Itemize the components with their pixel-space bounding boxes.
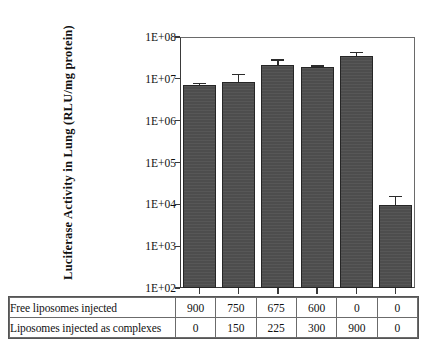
- data-table: Free liposomes injected90075067560000Lip…: [8, 296, 419, 339]
- table-cell: 900: [337, 318, 377, 338]
- x-axis-tick-mark: [238, 288, 239, 294]
- table-cell: 0: [377, 318, 417, 338]
- table-row: Free liposomes injected90075067560000: [10, 298, 418, 318]
- table-cell: 600: [296, 298, 336, 318]
- y-axis-tick-label: 1E+06: [114, 115, 176, 127]
- plot-area: [180, 37, 415, 288]
- error-bar-cap: [271, 59, 284, 60]
- error-bar-cap: [193, 83, 206, 84]
- table-row-label: Liposomes injected as complexes: [10, 318, 176, 338]
- x-axis-tick-marks: [180, 288, 415, 295]
- table-cell: 900: [175, 298, 215, 318]
- bar: [222, 82, 255, 288]
- bar: [261, 65, 294, 288]
- y-axis-tick-label: 1E+08: [114, 31, 176, 43]
- y-axis-tick-label: 1E+07: [114, 73, 176, 85]
- error-bar-cap: [350, 52, 363, 53]
- y-axis-tick-label: 1E+05: [114, 157, 176, 169]
- y-axis-title: Luciferase Activity in Lung (RLU/mg prot…: [61, 13, 76, 293]
- x-axis-tick-mark: [316, 288, 317, 294]
- x-axis-tick-mark: [356, 288, 357, 294]
- bar-group: [340, 37, 373, 288]
- bar: [183, 85, 216, 288]
- bar-group: [183, 37, 216, 288]
- bar: [340, 56, 373, 288]
- error-bar-cap: [389, 196, 402, 197]
- table-cell: 0: [337, 298, 377, 318]
- bar-group: [301, 37, 334, 288]
- table-cell: 750: [216, 298, 256, 318]
- y-axis-tick-labels: 1E+081E+071E+061E+051E+041E+031E+02: [110, 37, 176, 288]
- x-axis-tick-mark: [199, 288, 200, 294]
- y-axis-tick-label: 1E+02: [114, 282, 176, 294]
- y-axis-tick-label: 1E+04: [114, 198, 176, 210]
- bar-group: [379, 37, 412, 288]
- table-cell: 0: [175, 318, 215, 338]
- y-axis-tick-label: 1E+03: [114, 240, 176, 252]
- x-axis-tick-mark: [277, 288, 278, 294]
- bar-group: [261, 37, 294, 288]
- bar-group: [222, 37, 255, 288]
- table-cell: 225: [256, 318, 296, 338]
- error-bar-cap: [311, 65, 324, 66]
- bar: [301, 67, 334, 288]
- table-cell: 675: [256, 298, 296, 318]
- table-cell: 150: [216, 318, 256, 338]
- table-cell: 0: [377, 298, 417, 318]
- figure-container: Luciferase Activity in Lung (RLU/mg prot…: [0, 0, 429, 346]
- error-bar-cap: [232, 74, 245, 75]
- table-row: Liposomes injected as complexes015022530…: [10, 318, 418, 338]
- bar: [379, 205, 412, 288]
- table-cell: 300: [296, 318, 336, 338]
- table-row-label: Free liposomes injected: [10, 298, 176, 318]
- x-axis-tick-mark: [395, 288, 396, 294]
